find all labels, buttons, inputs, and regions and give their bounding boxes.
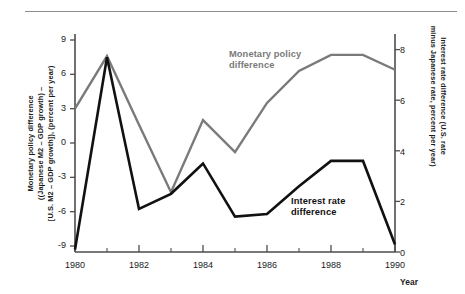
axis-lines [75,34,395,252]
line-monetary-policy-difference [75,55,395,192]
x-axis-ticks [75,245,395,252]
chart-figure: Monetary policy difference ((Japanese M2… [0,0,465,294]
plot-area [0,0,465,294]
